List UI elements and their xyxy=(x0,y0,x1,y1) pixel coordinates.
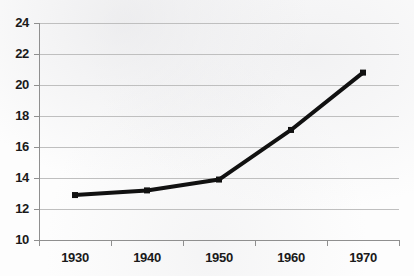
y-axis-tick-label: 18 xyxy=(1,108,29,123)
y-axis-tick-label: 10 xyxy=(1,232,29,247)
y-axis-tick-label: 14 xyxy=(1,170,29,185)
y-axis-tick-label: 24 xyxy=(1,15,29,30)
data-point-marker xyxy=(216,177,222,183)
line-chart: 1012141618202224 19301940195019601970 xyxy=(0,0,414,276)
x-axis-tick-label: 1950 xyxy=(189,250,249,265)
y-axis-tick-label: 16 xyxy=(1,139,29,154)
gridlines xyxy=(39,23,399,240)
x-axis-tick-label: 1970 xyxy=(333,250,393,265)
y-axis-tick-label: 22 xyxy=(1,46,29,61)
data-point-markers xyxy=(72,70,366,198)
y-axis-tick-label: 20 xyxy=(1,77,29,92)
x-axis-tick-label: 1930 xyxy=(45,250,105,265)
x-axis-tick-label: 1940 xyxy=(117,250,177,265)
data-point-marker xyxy=(72,192,78,198)
data-point-marker xyxy=(144,187,150,193)
y-axis-tick-label: 12 xyxy=(1,201,29,216)
data-point-marker xyxy=(288,127,294,133)
x-axis-tick-label: 1960 xyxy=(261,250,321,265)
data-point-marker xyxy=(360,70,366,76)
plot-area xyxy=(0,0,414,276)
y-axis-ticks xyxy=(34,23,39,240)
x-axis-ticks xyxy=(39,240,399,246)
